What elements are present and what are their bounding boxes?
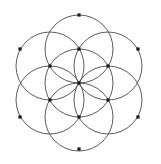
seed-of-life-diagram — [0, 0, 161, 164]
vertex-outer-upper-right — [136, 47, 139, 50]
vertex-inner-upper-right — [106, 64, 109, 67]
vertex-outer-top — [77, 13, 80, 16]
vertex-inner-top — [77, 47, 80, 50]
vertex-outer-lower-right — [136, 115, 139, 118]
vertex-inner-upper-left — [48, 64, 51, 67]
vertex-inner-lower-left — [48, 98, 51, 101]
vertex-outer-upper-left — [18, 47, 21, 50]
vertex-outer-bottom — [77, 147, 80, 150]
figure-canvas: Seven overlapping circles of equal radiu… — [0, 0, 161, 164]
vertex-outer-lower-left — [18, 115, 21, 118]
vertex-center — [77, 81, 80, 84]
vertex-inner-bottom — [77, 115, 80, 118]
vertex-inner-lower-right — [106, 98, 109, 101]
